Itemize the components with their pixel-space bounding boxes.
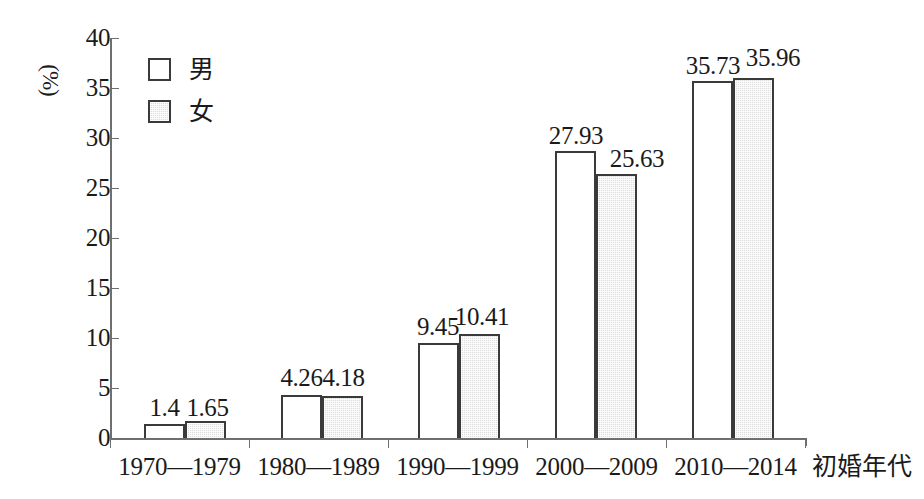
bar-female-1980-1989[interactable] (322, 396, 363, 440)
legend-item-male[interactable]: 男 (148, 48, 214, 90)
x-axis-title: 初婚年代 (812, 452, 912, 482)
y-tick-label-5: 5 (64, 375, 110, 400)
bar-value-female-2000-2009: 25.63 (600, 145, 674, 173)
legend-item-female[interactable]: 女 (148, 90, 214, 132)
bar-male-2000-2009[interactable] (555, 151, 596, 440)
y-tick-10 (112, 338, 119, 339)
x-axis-line (110, 438, 807, 440)
bar-value-female-2010-2014: 35.96 (736, 44, 810, 72)
y-tick-label-20: 20 (64, 225, 110, 250)
bar-male-1980-1989[interactable] (281, 395, 322, 440)
bar-female-2010-2014[interactable] (733, 78, 774, 440)
x-category-label-2010-2014: 2010—2014 (666, 452, 805, 482)
y-tick-label-0: 0 (64, 425, 110, 450)
bar-chart: (%) 40 35 30 25 20 15 10 5 0 男 女 1.4 1.6… (0, 0, 924, 499)
x-tick-2 (388, 440, 389, 448)
bar-female-2000-2009[interactable] (596, 174, 637, 440)
y-tick-label-30: 30 (64, 125, 110, 150)
y-tick-label-25: 25 (64, 175, 110, 200)
y-tick-25 (112, 188, 119, 189)
y-tick-5 (112, 388, 119, 389)
y-tick-15 (112, 288, 119, 289)
bar-female-1990-1999[interactable] (459, 334, 500, 440)
bar-male-2010-2014[interactable] (692, 81, 733, 440)
y-tick-label-15: 15 (64, 275, 110, 300)
legend-label-male: 男 (189, 57, 214, 82)
legend-label-female: 女 (189, 99, 214, 124)
x-tick-5 (805, 440, 806, 448)
x-category-label-1990-1999: 1990—1999 (388, 452, 527, 482)
x-tick-4 (666, 440, 667, 448)
x-category-label-1970-1979: 1970—1979 (110, 452, 249, 482)
bar-value-female-1980-1989: 4.18 (313, 364, 374, 392)
bar-value-female-1990-1999: 10.41 (448, 303, 516, 331)
x-tick-3 (527, 440, 528, 448)
y-tick-label-10: 10 (64, 325, 110, 350)
legend: 男 女 (148, 48, 214, 132)
y-tick-label-35: 35 (64, 75, 110, 100)
y-tick-35 (112, 88, 119, 89)
y-tick-label-40: 40 (64, 25, 110, 50)
y-tick-30 (112, 138, 119, 139)
y-tick-40 (112, 38, 119, 39)
x-category-label-1980-1989: 1980—1989 (249, 452, 388, 482)
y-tick-20 (112, 238, 119, 239)
x-category-label-2000-2009: 2000—2009 (527, 452, 666, 482)
legend-swatch-female-icon (148, 100, 171, 123)
legend-swatch-male-icon (148, 58, 171, 81)
x-tick-1 (249, 440, 250, 448)
bar-value-female-1970-1979: 1.65 (177, 394, 238, 422)
bar-male-1990-1999[interactable] (418, 343, 459, 440)
x-tick-0 (110, 440, 111, 448)
